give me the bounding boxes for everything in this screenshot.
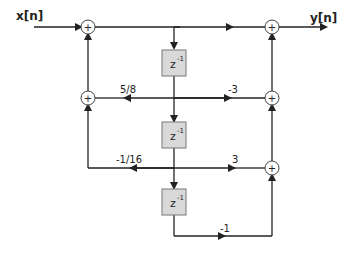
svg-text:z: z (170, 197, 176, 210)
svg-text:-1: -1 (177, 55, 184, 63)
signal-flow-diagram: + + + + + z -1 z -1 z -1 x[n] y[n] 5/8 -… (0, 0, 343, 255)
adder-out-top: + (265, 20, 279, 34)
gain-minus-3: -3 (228, 84, 238, 95)
gain-3: 3 (232, 154, 238, 165)
delay-block-2: z -1 (162, 122, 186, 148)
adder-in-mid: + (81, 91, 95, 105)
svg-text:+: + (268, 22, 276, 33)
output-label: y[n] (310, 11, 337, 25)
gain-minus-1: -1 (220, 223, 230, 234)
gain-5-8: 5/8 (120, 84, 136, 95)
delay-block-1: z -1 (162, 50, 186, 76)
svg-text:+: + (268, 93, 276, 104)
delay-block-3: z -1 (162, 189, 186, 215)
svg-text:-1: -1 (177, 194, 184, 202)
svg-text:z: z (170, 130, 176, 143)
gain-minus-1-16: -1/16 (116, 154, 142, 165)
adder-in-top: + (81, 20, 95, 34)
svg-text:z: z (170, 58, 176, 71)
svg-text:+: + (84, 22, 92, 33)
svg-text:+: + (84, 93, 92, 104)
svg-text:-1: -1 (177, 127, 184, 135)
svg-text:+: + (268, 163, 276, 174)
adder-out-low: + (265, 161, 279, 175)
adder-out-mid: + (265, 91, 279, 105)
input-label: x[n] (16, 9, 43, 23)
